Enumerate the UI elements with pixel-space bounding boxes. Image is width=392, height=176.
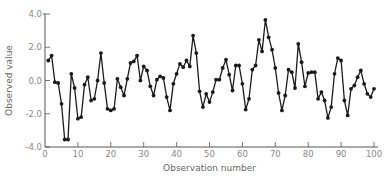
data-point: [181, 65, 185, 69]
data-point: [352, 84, 356, 88]
x-tick-label: 10: [72, 149, 83, 159]
data-point: [336, 56, 340, 60]
data-point: [264, 18, 268, 22]
data-point: [135, 54, 139, 58]
data-point: [244, 108, 248, 112]
data-point: [56, 81, 60, 85]
data-point: [155, 78, 159, 82]
data-point: [221, 66, 225, 70]
data-point: [234, 64, 238, 68]
data-point: [208, 100, 212, 104]
data-point: [96, 79, 100, 83]
data-point: [270, 48, 274, 52]
y-tick-label: -4.0: [25, 142, 42, 152]
x-tick-label: 80: [303, 149, 314, 159]
data-point: [287, 68, 291, 72]
data-point: [267, 35, 271, 39]
data-point: [194, 51, 198, 55]
data-point: [201, 105, 205, 109]
data-point: [254, 64, 258, 68]
data-point: [362, 82, 366, 86]
data-point: [132, 60, 136, 64]
data-point: [122, 94, 126, 98]
data-point: [76, 117, 80, 121]
data-point: [119, 85, 123, 89]
data-point: [366, 92, 370, 96]
data-point: [293, 86, 297, 90]
data-point: [53, 80, 57, 84]
data-point: [211, 90, 215, 94]
x-tick-label: 40: [171, 149, 182, 159]
y-tick-label: 2.0: [28, 42, 42, 52]
x-tick-label: 70: [270, 149, 281, 159]
data-point: [323, 99, 327, 103]
data-point: [106, 107, 110, 111]
y-tick-label: 4.0: [28, 9, 42, 19]
data-point: [214, 78, 218, 82]
data-point: [142, 65, 146, 69]
axes: [43, 14, 378, 147]
data-point: [198, 89, 202, 93]
data-point: [346, 114, 350, 118]
data-point: [46, 59, 50, 63]
data-point: [320, 90, 324, 94]
data-point: [273, 66, 277, 70]
data-point: [372, 87, 376, 91]
data-point: [280, 109, 284, 113]
x-tick-label: 20: [105, 149, 116, 159]
data-point: [69, 72, 73, 76]
data-point: [250, 68, 254, 72]
data-point: [168, 109, 172, 113]
x-axis-title: Observation number: [163, 163, 256, 173]
data-point: [125, 77, 129, 81]
data-point: [73, 86, 77, 90]
x-tick-label: 0: [42, 149, 47, 159]
data-point: [99, 51, 103, 55]
data-point: [60, 102, 64, 106]
y-tick-label: 0.0: [28, 76, 42, 86]
data-point: [310, 70, 314, 74]
data-point: [116, 77, 120, 81]
data-point: [148, 84, 152, 88]
data-point: [277, 91, 281, 95]
x-tick-label: 90: [336, 149, 347, 159]
line-chart: 4.02.00.0-2.0-4.00102030405060708090100O…: [0, 0, 392, 176]
data-point: [290, 70, 294, 74]
data-point: [224, 58, 228, 62]
data-point: [260, 50, 264, 54]
data-point: [175, 72, 179, 76]
data-point: [158, 74, 162, 78]
data-point: [204, 92, 208, 96]
data-point: [241, 82, 245, 86]
data-point: [129, 61, 133, 65]
data-point: [66, 138, 70, 142]
data-point: [313, 70, 317, 74]
data-point: [283, 94, 287, 98]
data-point: [102, 81, 106, 85]
data-point: [303, 84, 307, 88]
data-point: [339, 59, 343, 63]
plot-area: 4.02.00.0-2.0-4.00102030405060708090100O…: [4, 9, 382, 173]
data-point: [343, 99, 347, 103]
data-point: [83, 83, 87, 87]
data-point: [237, 64, 241, 68]
data-point: [86, 75, 90, 79]
data-point: [218, 78, 222, 82]
data-point: [112, 107, 116, 111]
data-point: [50, 54, 54, 58]
data-point: [139, 79, 143, 83]
x-tick-label: 60: [237, 149, 248, 159]
data-point: [63, 138, 67, 142]
data-point: [227, 73, 231, 77]
data-point: [79, 115, 83, 119]
data-point: [89, 99, 93, 103]
data-point: [306, 71, 310, 75]
data-point: [191, 34, 195, 38]
data-point: [145, 69, 149, 73]
data-point: [296, 42, 300, 46]
data-point: [257, 38, 261, 42]
data-point: [231, 89, 235, 93]
x-tick-label: 50: [204, 149, 215, 159]
data-point: [349, 87, 353, 91]
data-point: [300, 60, 304, 64]
